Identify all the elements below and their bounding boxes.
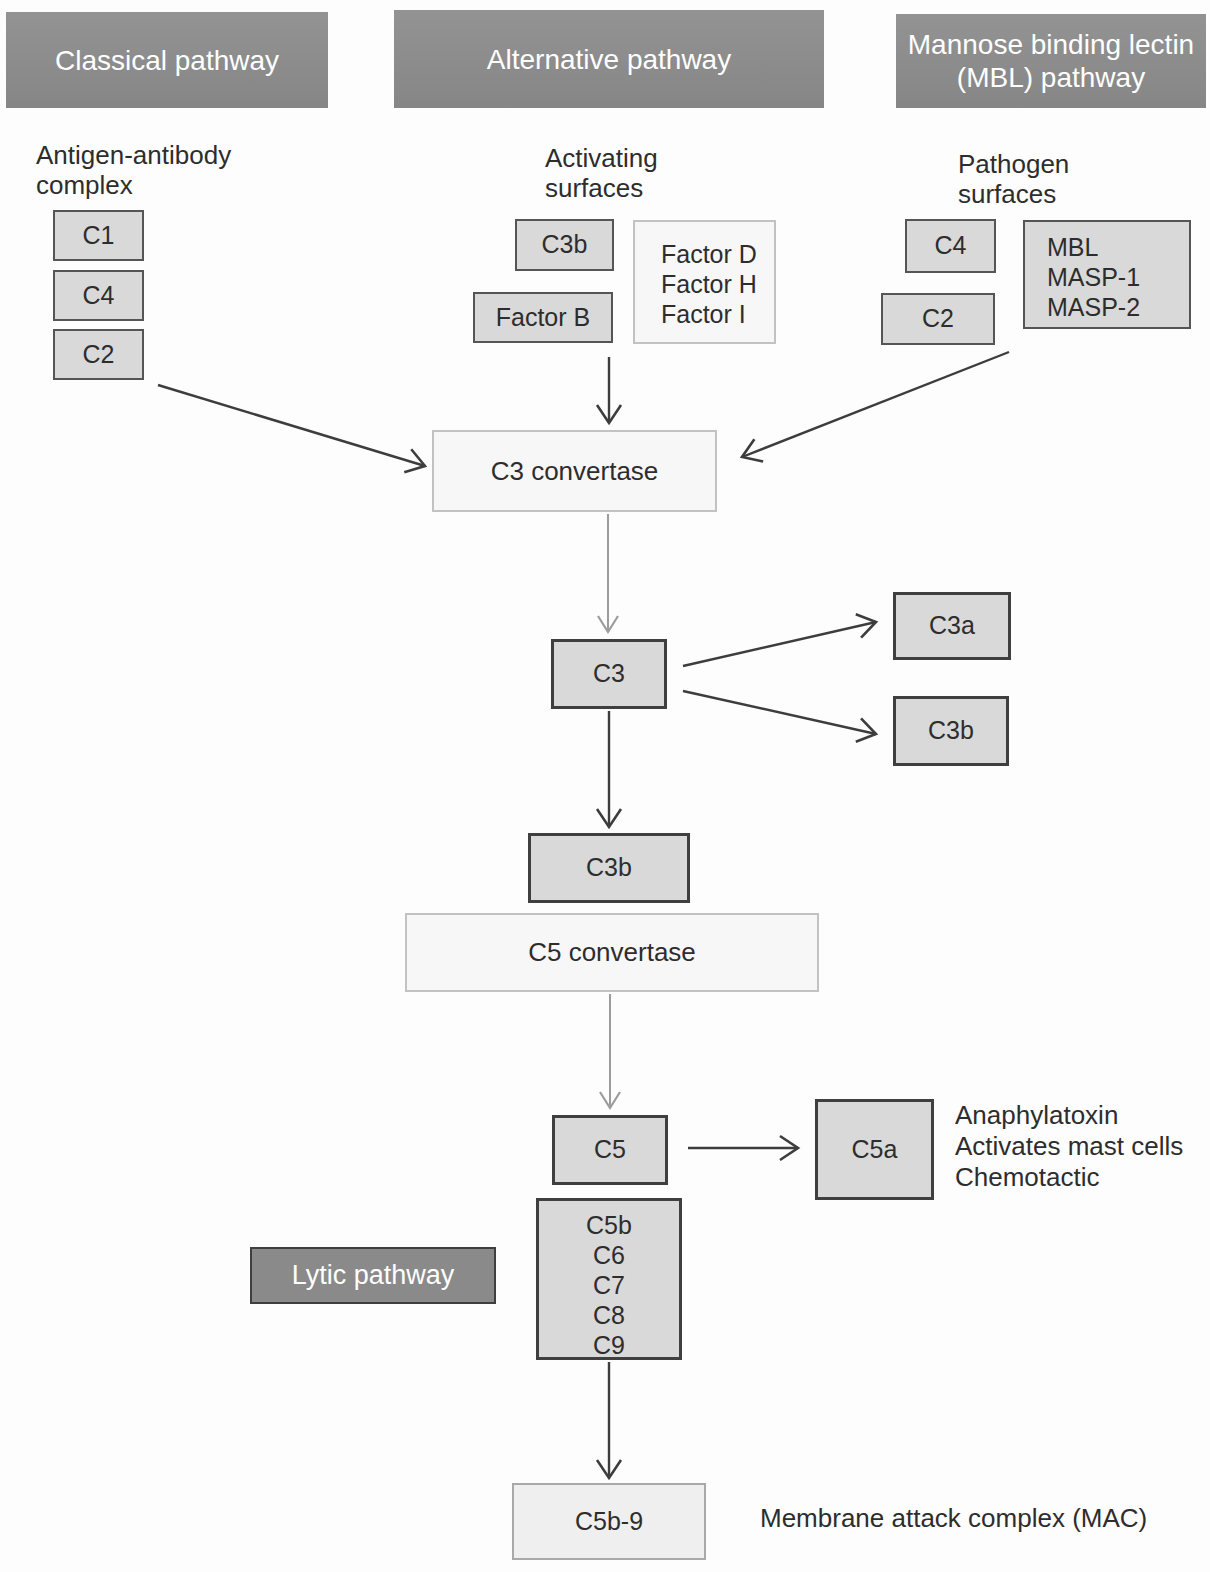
node-c5a-label: C5a [852,1136,898,1164]
node-c2-right-label: C2 [922,305,954,333]
node-masp1-label: MASP-1 [1047,262,1140,292]
label-c5a-note-line3: Chemotactic [955,1162,1183,1193]
label-activating-line2: surfaces [545,173,658,203]
node-c3b-alternative: C3b [515,219,614,271]
node-c2-left-label: C2 [83,341,115,369]
header-alternative-pathway: Alternative pathway [394,10,824,108]
node-c5b-label: C5b [586,1210,632,1240]
label-pathogen-line1: Pathogen [958,149,1069,179]
header-classical-pathway: Classical pathway [6,12,328,108]
label-activating-line1: Activating [545,143,658,173]
node-c5b9-complex: C5b C6 C7 C8 C9 [536,1198,682,1360]
label-mac-note: Membrane attack complex (MAC) [760,1503,1147,1533]
node-c3b-main: C3b [528,833,690,903]
node-c3-convertase-label: C3 convertase [491,457,659,486]
label-mac-note-text: Membrane attack complex (MAC) [760,1503,1147,1533]
node-masp2-label: MASP-2 [1047,292,1140,322]
label-c5a-note-line1: Anaphylatoxin [955,1100,1183,1131]
node-c3-label: C3 [593,660,625,688]
label-pathogen-surfaces: Pathogen surfaces [958,149,1069,209]
header-lytic-pathway-label: Lytic pathway [292,1261,455,1291]
node-c1: C1 [53,210,144,261]
node-factor-b: Factor B [473,292,613,343]
label-activating-surfaces: Activating surfaces [545,143,658,203]
label-c5a-note: Anaphylatoxin Activates mast cells Chemo… [955,1100,1183,1193]
node-mbl-label: MBL [1047,232,1098,262]
arrow-c3-to-c3a [683,622,876,666]
header-classical-pathway-label: Classical pathway [55,44,279,77]
arrow-mbl-to-c3-convertase [742,352,1009,457]
node-c2-right: C2 [881,293,995,345]
node-c8-label: C8 [593,1300,625,1330]
header-mbl-pathway: Mannose binding lectin (MBL) pathway [896,14,1206,108]
node-c5b-9: C5b-9 [512,1483,706,1560]
node-c3a: C3a [893,592,1011,660]
node-c1-label: C1 [83,222,115,250]
node-c6-label: C6 [593,1240,625,1270]
label-antigen-line2: complex [36,170,231,200]
header-alternative-pathway-label: Alternative pathway [487,43,731,76]
node-factor-dhi: Factor D Factor H Factor I [633,220,776,344]
header-mbl-pathway-line2: (MBL) pathway [957,61,1145,94]
node-c5-convertase: C5 convertase [405,913,819,992]
node-c3a-label: C3a [929,612,975,640]
node-c3-convertase: C3 convertase [432,430,717,512]
node-c4-right-label: C4 [935,232,967,260]
label-pathogen-line2: surfaces [958,179,1069,209]
header-lytic-pathway: Lytic pathway [250,1247,496,1304]
label-antigen-line1: Antigen-antibody [36,140,231,170]
arrow-antigen-complex-to-c3-convertase [158,385,425,466]
node-factor-b-label: Factor B [496,304,590,332]
node-c7-label: C7 [593,1270,625,1300]
node-c3: C3 [551,639,667,709]
node-factor-h-label: Factor H [661,269,757,299]
node-c3b-right: C3b [893,696,1009,766]
complement-pathway-diagram: Classical pathway Alternative pathway Ma… [0,0,1210,1572]
header-mbl-pathway-line1: Mannose binding lectin [908,28,1194,61]
node-c5-convertase-label: C5 convertase [528,938,696,967]
node-c5b-9-label: C5b-9 [575,1508,643,1536]
node-c5: C5 [552,1115,668,1185]
node-factor-d-label: Factor D [661,239,757,269]
node-c9-label: C9 [593,1330,625,1360]
node-c5-label: C5 [594,1136,626,1164]
node-mbl-masp: MBL MASP-1 MASP-2 [1023,220,1191,329]
node-c2-left: C2 [53,329,144,380]
arrow-c3-to-c3b [683,691,876,734]
label-antigen-antibody-complex: Antigen-antibody complex [36,140,231,200]
node-c3b-right-label: C3b [928,717,974,745]
node-c3b-alternative-label: C3b [542,231,588,259]
node-c3b-main-label: C3b [586,854,632,882]
node-c4-left: C4 [53,270,144,321]
node-factor-i-label: Factor I [661,299,746,329]
label-c5a-note-line2: Activates mast cells [955,1131,1183,1162]
node-c4-right: C4 [905,219,996,273]
node-c5a: C5a [815,1099,934,1200]
node-c4-left-label: C4 [83,282,115,310]
